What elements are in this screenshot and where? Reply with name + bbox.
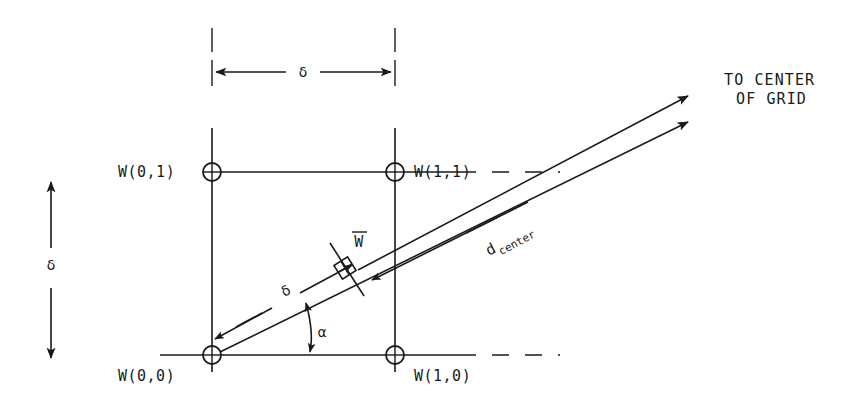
diagonal-delta-dimension (215, 265, 352, 339)
d-center-label-main: d (482, 239, 499, 259)
d-center-label-subscript: center (496, 228, 538, 258)
diagram-root: W(0,1) W(1,1) W(0,0) W(1,0) δ δ δ α d ce… (0, 0, 853, 409)
node-label-w00: W(0,0) (118, 367, 175, 385)
node-label-w11: W(1,1) (414, 163, 471, 181)
interp-point-label: W (354, 233, 364, 251)
center-direction-lower-ray (220, 122, 688, 352)
destination-label-line2: OF GRID (736, 90, 807, 108)
alpha-angle-label: α (317, 324, 326, 340)
node-label-w01: W(0,1) (118, 163, 175, 181)
vertical-delta-label: δ (47, 257, 56, 273)
interp-point-marker (334, 257, 356, 279)
grid-node-w00 (203, 346, 221, 364)
destination-label-line1: TO CENTER (724, 71, 815, 89)
node-label-w10: W(1,0) (414, 367, 471, 385)
diagonal-delta-label: δ (278, 282, 293, 300)
alpha-angle-arc (306, 303, 311, 352)
d-center-label-group: d center (482, 220, 537, 263)
grid-node-w11 (386, 163, 404, 181)
diagram-canvas: W(0,1) W(1,1) W(0,0) W(1,0) δ δ δ α d ce… (0, 0, 853, 409)
grid-continuation-dashes (492, 172, 560, 355)
grid-node-w01 (203, 163, 221, 181)
horizontal-delta-label: δ (299, 64, 308, 80)
cell-vertical-lines (212, 128, 395, 372)
grid-node-w10 (386, 346, 404, 364)
